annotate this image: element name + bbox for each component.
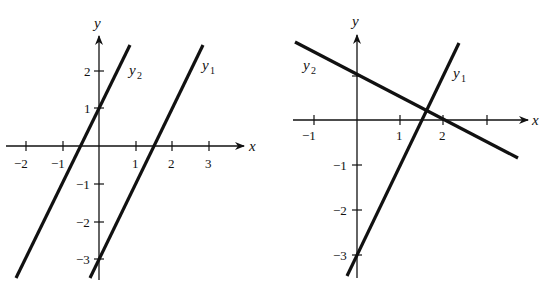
left-graph: x y −2 −1 1 2 3 2 1 −1 −2 −3 — [6, 15, 256, 280]
left-y-tick-label: 2 — [84, 64, 91, 79]
left-x-axis-label: x — [248, 138, 256, 154]
left-y1-label: y — [200, 57, 209, 73]
left-y-tick-label: 1 — [84, 101, 91, 116]
left-x-tick-label: 1 — [132, 156, 139, 171]
left-y-tick-label: −2 — [76, 215, 90, 230]
left-x-tick-label: −1 — [51, 156, 65, 171]
right-graph: x y −1 1 2 −1 −2 −3 y 2 y 1 — [293, 13, 539, 278]
left-y-axis-label: y — [92, 15, 101, 31]
right-y2-label: y — [301, 57, 310, 73]
right-y-axis-label: y — [350, 13, 359, 29]
left-x-tick-label: 2 — [168, 156, 175, 171]
left-x-tick-label: 3 — [205, 156, 212, 171]
left-y1-subscript: 1 — [210, 65, 215, 76]
right-x-tick-label: −1 — [302, 128, 316, 143]
right-y1-label: y — [451, 65, 460, 81]
left-x-tick-label: −2 — [14, 156, 28, 171]
right-y2-subscript: 2 — [311, 65, 316, 76]
left-line-y1 — [90, 45, 203, 278]
right-y-tick-label: −1 — [333, 158, 347, 173]
left-y2-subscript: 2 — [137, 70, 142, 81]
right-y-tick-label: −2 — [333, 203, 347, 218]
figure: x y −2 −1 1 2 3 2 1 −1 −2 −3 — [0, 0, 541, 292]
right-y1-subscript: 1 — [461, 73, 466, 84]
right-x-tick-label: 2 — [439, 128, 446, 143]
left-line-y2 — [16, 45, 130, 278]
left-y-tick-label: −1 — [76, 177, 90, 192]
left-y-tick-label: −3 — [76, 252, 90, 267]
right-y-tick-label: −3 — [333, 248, 347, 263]
left-y2-label: y — [127, 62, 136, 78]
right-x-tick-label: 1 — [396, 128, 403, 143]
right-x-axis-label: x — [531, 112, 539, 128]
right-line-y2 — [295, 42, 518, 158]
